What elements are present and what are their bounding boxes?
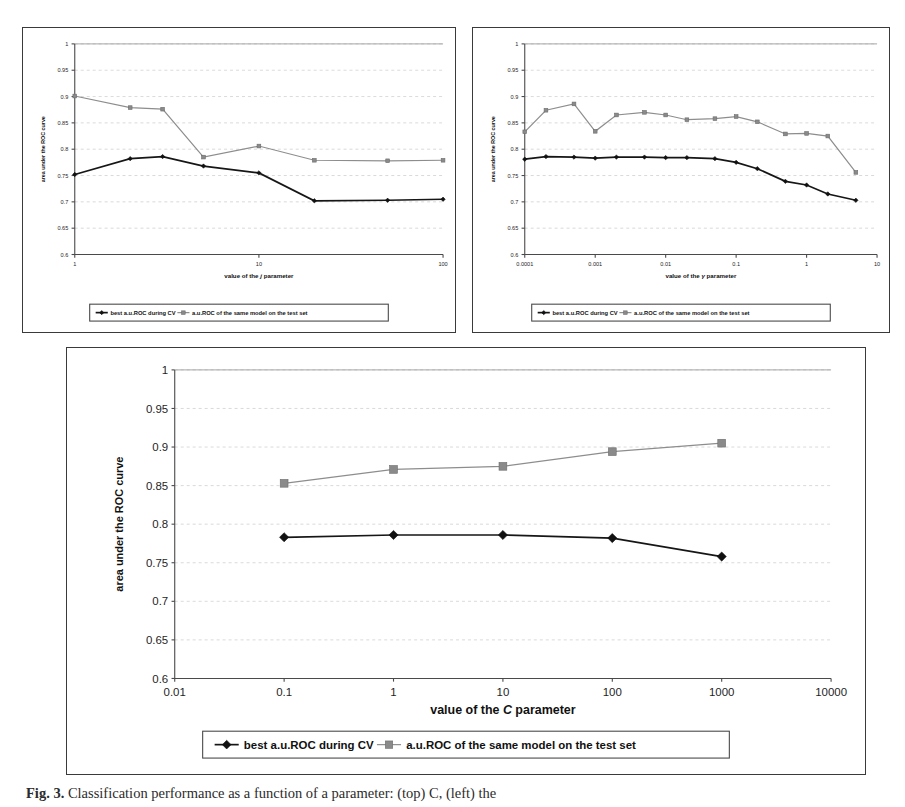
- x-tick-label: 0.1: [732, 261, 740, 267]
- x-tick-label: 1: [73, 261, 76, 267]
- data-point-marker: [73, 94, 77, 98]
- y-tick-label: 0.75: [146, 557, 168, 569]
- data-point-marker: [643, 110, 647, 114]
- x-axis-title-suffix: parameter: [262, 272, 294, 279]
- y-tick-label: 0.7: [152, 595, 168, 607]
- data-point-marker: [805, 132, 809, 136]
- data-point-marker: [386, 159, 390, 163]
- y-tick-label: 0.85: [57, 120, 68, 126]
- data-point-marker: [593, 129, 597, 133]
- data-point-marker: [664, 113, 668, 117]
- y-tick-label: 0.6: [152, 673, 168, 685]
- x-tick-label: 0.01: [164, 686, 186, 698]
- x-tick-label: 0.001: [588, 261, 602, 267]
- y-tick-label: 0.85: [146, 480, 168, 492]
- data-point-marker: [202, 155, 206, 159]
- y-axis-title: area under the ROC curve: [490, 116, 496, 182]
- legend-label-test: a.u.ROC of the same model on the test se…: [634, 310, 750, 316]
- chart-panel-bottom: 0.60.650.70.750.80.850.90.9510.010.11101…: [66, 347, 866, 775]
- data-point-marker: [572, 155, 576, 159]
- data-point-marker: [257, 144, 261, 148]
- y-tick-label: 0.9: [61, 94, 69, 100]
- x-tick-label: 0.0001: [516, 261, 533, 267]
- data-point-marker: [826, 134, 830, 138]
- x-axis-title: value of the j parameter: [224, 272, 294, 279]
- data-point-marker: [523, 157, 527, 161]
- y-tick-label: 0.7: [511, 199, 519, 205]
- chart-top-left-svg: 0.60.650.70.750.80.850.90.951110100area …: [23, 28, 455, 332]
- chart-bottom-svg: 0.60.650.70.750.80.850.90.9510.010.11101…: [67, 348, 865, 774]
- x-tick-label: 1000: [709, 686, 734, 698]
- y-tick-label: 0.65: [146, 634, 168, 646]
- figure-page: 0.60.650.70.750.80.850.90.951110100area …: [0, 0, 905, 807]
- y-tick-label: 1: [162, 364, 168, 376]
- data-point-marker: [128, 106, 132, 110]
- y-tick-label: 0.75: [57, 173, 68, 179]
- data-point-marker: [312, 158, 316, 162]
- y-tick-label: 0.9: [152, 441, 168, 453]
- y-tick-label: 0.85: [507, 120, 518, 126]
- y-tick-label: 0.9: [511, 94, 519, 100]
- data-point-marker: [608, 533, 617, 542]
- x-axis-title: value of the C parameter: [430, 703, 575, 717]
- data-point-marker: [713, 117, 717, 121]
- legend-label-cv: best a.u.ROC during CV: [110, 310, 175, 316]
- plot-area-top-right: 0.60.650.70.750.80.850.90.9510.00010.001…: [473, 28, 889, 332]
- data-point-marker: [160, 154, 164, 158]
- series-line-test: [525, 104, 856, 172]
- data-point-marker: [854, 171, 858, 175]
- plot-area-top-left: 0.60.650.70.750.80.850.90.951110100area …: [23, 28, 455, 332]
- chart-top-right-svg: 0.60.650.70.750.80.850.90.9510.00010.001…: [473, 28, 889, 332]
- data-point-marker: [280, 533, 289, 542]
- chart-panel-top-left: 0.60.650.70.750.80.850.90.951110100area …: [22, 27, 456, 333]
- data-point-marker: [441, 197, 445, 201]
- x-tick-label: 100: [438, 261, 447, 267]
- figure-caption-label: Fig. 3.: [26, 785, 64, 801]
- x-tick-label: 1: [390, 686, 396, 698]
- series-line-cv: [525, 157, 856, 201]
- y-tick-label: 0.95: [57, 67, 68, 73]
- data-point-marker: [608, 448, 616, 456]
- data-point-marker: [755, 120, 759, 124]
- data-point-marker: [572, 102, 576, 106]
- data-point-marker: [161, 107, 165, 111]
- y-tick-label: 1: [515, 41, 518, 47]
- x-axis-title-prefix: value of the: [430, 703, 503, 717]
- x-axis-title-prefix: value of the: [665, 272, 701, 279]
- x-tick-label: 10: [256, 261, 262, 267]
- x-tick-label: 10: [874, 261, 880, 267]
- data-point-marker: [713, 156, 717, 160]
- data-point-marker: [128, 156, 132, 160]
- x-tick-label: 10: [497, 686, 510, 698]
- chart-panel-top-right: 0.60.650.70.750.80.850.90.9510.00010.001…: [472, 27, 890, 333]
- data-point-marker: [593, 156, 597, 160]
- x-tick-label: 1: [805, 261, 808, 267]
- data-point-marker: [718, 439, 726, 447]
- x-tick-label: 10000: [815, 686, 847, 698]
- y-tick-label: 0.95: [507, 67, 518, 73]
- data-point-marker: [201, 164, 205, 168]
- legend-marker-test: [624, 311, 628, 315]
- legend-marker-test: [385, 741, 392, 748]
- x-tick-label: 0.1: [276, 686, 292, 698]
- data-point-marker: [498, 530, 507, 539]
- y-tick-label: 0.6: [61, 252, 69, 258]
- data-point-marker: [685, 118, 689, 122]
- data-point-marker: [615, 113, 619, 117]
- x-tick-label: 100: [603, 686, 622, 698]
- y-tick-label: 0.6: [511, 252, 519, 258]
- y-tick-label: 0.7: [61, 199, 69, 205]
- data-point-marker: [499, 462, 507, 470]
- data-point-marker: [734, 115, 738, 119]
- data-point-marker: [734, 160, 738, 164]
- x-axis-title: value of the γ parameter: [665, 272, 737, 279]
- y-tick-label: 0.8: [61, 146, 69, 152]
- data-point-marker: [441, 158, 445, 162]
- y-tick-label: 1: [65, 41, 68, 47]
- figure-caption: Fig. 3. Classification performance as a …: [26, 784, 886, 804]
- data-point-marker: [642, 155, 646, 159]
- y-axis-title: area under the ROC curve: [113, 457, 125, 592]
- legend-label-cv: best a.u.ROC during CV: [244, 739, 374, 751]
- data-point-marker: [663, 155, 667, 159]
- data-point-marker: [280, 479, 288, 487]
